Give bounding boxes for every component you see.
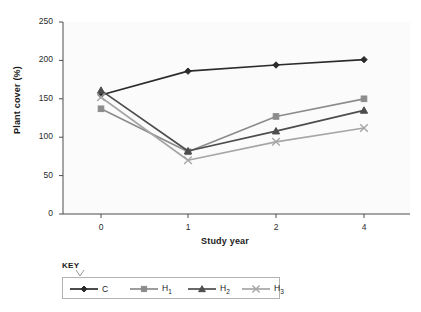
legend-item-H3[interactable]: H3: [241, 278, 284, 300]
x-tick-label: 0: [88, 222, 114, 232]
legend-label-H3: H3: [274, 283, 284, 295]
x-tick-label: 1: [175, 222, 201, 232]
legend-marker-triangle-icon: [187, 282, 217, 296]
y-tick-label: 0: [27, 208, 53, 218]
y-tick-label: 100: [27, 131, 53, 141]
key-pointer-icon: [76, 270, 84, 276]
legend-box: CH1H2H3: [62, 277, 280, 299]
legend-item-H2[interactable]: H2: [187, 278, 230, 300]
legend-marker-cross-icon: [241, 282, 271, 296]
x-tick-label: 4: [351, 222, 377, 232]
x-axis-title: Study year: [175, 236, 275, 246]
y-tick-label: 200: [27, 54, 53, 64]
legend-marker-diamond-icon: [69, 282, 99, 296]
y-axis-title: Plant cover (%): [12, 50, 22, 150]
legend-label-C: C: [102, 284, 108, 294]
plant-cover-line-chart: Plant cover (%) Study year 0501001502002…: [0, 0, 421, 312]
legend-item-H1[interactable]: H1: [129, 278, 172, 300]
y-tick-label: 250: [27, 16, 53, 26]
legend-item-C[interactable]: C: [69, 278, 108, 300]
legend-label-H1: H1: [162, 283, 172, 295]
plot-area-background: [63, 22, 410, 214]
legend-title: KEY: [62, 261, 79, 270]
y-tick-label: 150: [27, 93, 53, 103]
legend-label-H2: H2: [220, 283, 230, 295]
y-tick-label: 50: [27, 170, 53, 180]
x-tick-label: 2: [263, 222, 289, 232]
legend-marker-square-icon: [129, 282, 159, 296]
